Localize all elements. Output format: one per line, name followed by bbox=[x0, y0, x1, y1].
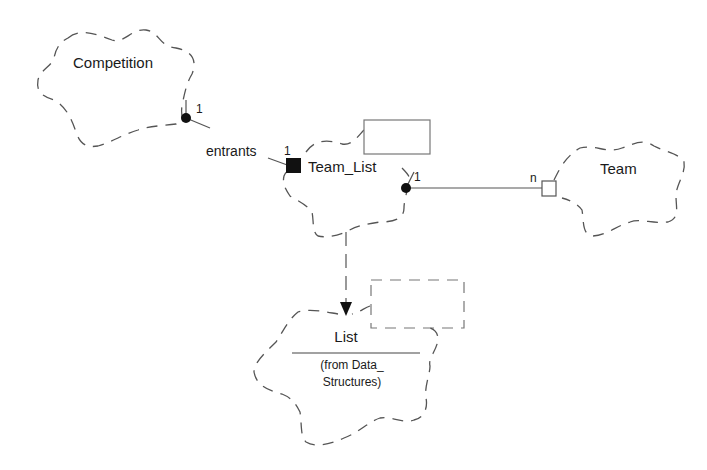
team-class[interactable]: Team bbox=[554, 142, 684, 236]
list-class[interactable]: List (from Data_ Structures) bbox=[254, 280, 464, 445]
team-cloud-outline bbox=[554, 142, 684, 236]
team-list-class-name: Team_List bbox=[308, 158, 377, 175]
team-list-class[interactable]: Team_List bbox=[283, 120, 430, 237]
team-list-template-box bbox=[364, 120, 430, 154]
competition-multiplicity: 1 bbox=[196, 102, 203, 116]
team-list-team-multiplicity: 1 bbox=[414, 170, 421, 184]
competition-end-filled-circle-icon bbox=[181, 113, 191, 123]
competition-class[interactable]: Competition bbox=[38, 30, 194, 147]
list-package-note-line1: (from Data_ bbox=[320, 358, 384, 372]
competition-cloud-outline bbox=[38, 30, 194, 147]
class-diagram: Competition 1 entrants Team_List 1 1 n T… bbox=[0, 0, 707, 470]
team-class-name: Team bbox=[600, 160, 637, 177]
team-list-filled-square-icon bbox=[286, 158, 301, 173]
list-package-note-line2: Structures) bbox=[323, 375, 382, 389]
list-template-dashed-box bbox=[371, 280, 464, 328]
team-multiplicity: n bbox=[530, 171, 537, 185]
dependency-arrowhead-icon bbox=[340, 302, 352, 316]
team-list-end-filled-circle-icon bbox=[401, 183, 411, 193]
competition-class-name: Competition bbox=[73, 54, 153, 71]
team-hollow-square-icon bbox=[542, 181, 556, 196]
entrants-role-label: entrants bbox=[206, 143, 257, 159]
list-class-name: List bbox=[334, 328, 358, 345]
team-list-entrants-multiplicity: 1 bbox=[284, 144, 291, 158]
